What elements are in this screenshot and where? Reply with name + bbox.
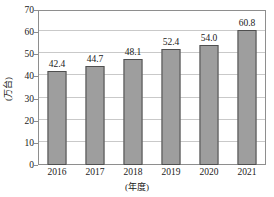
x-tick-label: 2021: [228, 166, 266, 178]
bar-value-label: 52.4: [163, 37, 180, 47]
y-tick-label: 10: [0, 138, 34, 148]
bar-value-label: 48.1: [125, 47, 142, 57]
bar-value-label: 44.7: [87, 54, 104, 64]
x-tick-label: 2018: [114, 166, 152, 178]
bar-chart: 42.444.748.152.454.060.8 010203040506070…: [0, 0, 274, 197]
x-tick-label: 2020: [190, 166, 228, 178]
bar[interactable]: [200, 45, 219, 165]
bar-slot: 54.0: [190, 10, 228, 165]
bar-slot: 44.7: [76, 10, 114, 165]
x-tick-label: 2017: [76, 166, 114, 178]
x-axis-title: (年度): [0, 182, 274, 192]
bar-value-label: 42.4: [49, 59, 66, 69]
x-axis-ticks: 201620172018201920202021: [38, 166, 266, 180]
bar[interactable]: [86, 66, 105, 165]
bar-value-label: 54.0: [201, 33, 218, 43]
y-tick-mark: [34, 32, 38, 33]
bar-slot: 48.1: [114, 10, 152, 165]
y-tick-mark: [34, 99, 38, 100]
bar[interactable]: [48, 71, 67, 165]
y-tick-mark: [34, 143, 38, 144]
y-tick-mark: [34, 76, 38, 77]
y-tick-label: 50: [0, 49, 34, 59]
y-tick-label: 70: [0, 5, 34, 15]
y-axis-title: (万台): [3, 69, 13, 109]
y-tick-mark: [34, 54, 38, 55]
y-tick-label: 0: [0, 160, 34, 170]
bar[interactable]: [238, 30, 257, 165]
y-tick-mark: [34, 121, 38, 122]
bar[interactable]: [124, 59, 143, 166]
bar-slot: 42.4: [38, 10, 76, 165]
bar-slot: 52.4: [152, 10, 190, 165]
y-tick-label: 60: [0, 27, 34, 37]
y-tick-mark: [34, 10, 38, 11]
x-tick-label: 2019: [152, 166, 190, 178]
bar-slot: 60.8: [228, 10, 266, 165]
x-tick-label: 2016: [38, 166, 76, 178]
y-tick-label: 20: [0, 116, 34, 126]
bars-layer: 42.444.748.152.454.060.8: [38, 10, 266, 165]
bar-value-label: 60.8: [239, 18, 256, 28]
bar[interactable]: [162, 49, 181, 165]
